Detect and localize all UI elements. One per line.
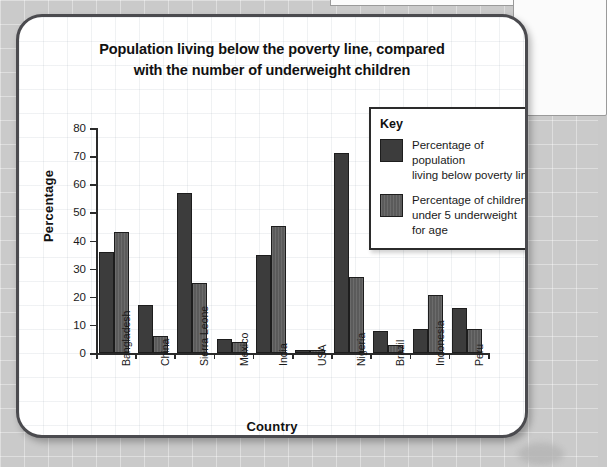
- chart-title-line-1: Population living below the poverty line…: [19, 39, 525, 60]
- y-axis-title: Percentage: [41, 170, 56, 242]
- y-axis-tick: [90, 128, 96, 130]
- x-axis-category-label: Nigeria: [355, 333, 367, 366]
- x-axis-tick: [488, 353, 490, 359]
- bar-group: [256, 226, 286, 353]
- y-axis-tick-label: 70: [73, 150, 86, 162]
- y-axis-tick-label: 40: [73, 235, 86, 247]
- legend-label-underweight: Percentage of children under 5 underweig…: [412, 193, 527, 239]
- paper-edge-top: [330, 0, 532, 6]
- legend-label-underweight-line-2: under 5 underweight: [412, 208, 527, 223]
- x-axis-category-label: Peru: [473, 344, 485, 366]
- x-axis-tick: [370, 353, 372, 359]
- y-axis-tick-label: 0: [80, 347, 86, 359]
- x-axis-tick: [174, 353, 176, 359]
- legend-swatch-poverty: [380, 139, 403, 162]
- bar-group: [334, 153, 364, 353]
- x-axis-title: Country: [19, 419, 525, 434]
- x-axis-tick: [410, 353, 412, 359]
- y-axis-tick-label: 80: [73, 122, 86, 134]
- bar: [271, 226, 286, 353]
- x-axis-tick: [331, 353, 333, 359]
- bar: [256, 255, 271, 353]
- legend-label-poverty-line-1: Percentage of population: [412, 138, 528, 168]
- chart-card: Population living below the poverty line…: [16, 14, 528, 438]
- bar: [217, 339, 232, 353]
- legend-label-underweight-line-3: for age: [412, 223, 527, 238]
- y-axis-tick-label: 10: [73, 319, 86, 331]
- x-axis-category-label: Bangladesh: [120, 311, 132, 366]
- legend-title: Key: [380, 117, 528, 131]
- x-axis-tick: [253, 353, 255, 359]
- bar: [334, 153, 349, 353]
- x-axis-category-label: China: [159, 339, 171, 366]
- legend-item-underweight: Percentage of children under 5 underweig…: [380, 193, 528, 239]
- x-axis-category-label: USA: [316, 344, 328, 366]
- legend-label-poverty-line-2: living below poverty line: [412, 168, 528, 183]
- x-axis-category-label: India: [277, 343, 289, 366]
- legend-item-poverty: Percentage of population living below po…: [380, 138, 528, 184]
- bar: [177, 193, 192, 353]
- legend-label-poverty: Percentage of population living below po…: [412, 138, 528, 184]
- chart-title-line-2: with the number of underweight children: [19, 60, 525, 81]
- x-axis-tick: [96, 353, 98, 359]
- y-axis-tick: [90, 297, 96, 299]
- y-axis-line: [96, 128, 98, 355]
- legend-label-underweight-line-1: Percentage of children: [412, 193, 527, 208]
- x-axis-tick: [135, 353, 137, 359]
- y-axis-tick-label: 60: [73, 178, 86, 190]
- x-axis-category-label: Brazil: [394, 340, 406, 366]
- x-axis-tick: [292, 353, 294, 359]
- y-axis-tick: [90, 269, 96, 271]
- y-axis-tick: [90, 325, 96, 327]
- x-axis-tick: [449, 353, 451, 359]
- y-axis-tick: [90, 156, 96, 158]
- bar: [413, 329, 428, 353]
- bar: [373, 331, 388, 354]
- y-axis-tick: [90, 241, 96, 243]
- legend-swatch-underweight: [380, 194, 403, 217]
- y-axis-tick: [90, 184, 96, 186]
- page-smudge: [518, 443, 564, 465]
- bar: [452, 308, 467, 353]
- legend-key: Key Percentage of population living belo…: [369, 107, 528, 250]
- bar: [99, 252, 114, 353]
- y-axis-tick-label: 50: [73, 206, 86, 218]
- bar: [138, 305, 153, 353]
- bar: [295, 350, 310, 353]
- x-axis-category-label: Indonesia: [434, 320, 446, 366]
- chart-title: Population living below the poverty line…: [19, 39, 525, 81]
- x-axis-category-label: Sierra Leone: [198, 306, 210, 366]
- y-axis-tick-label: 30: [73, 263, 86, 275]
- y-axis-tick: [90, 212, 96, 214]
- y-axis-tick-label: 20: [73, 291, 86, 303]
- x-axis-tick: [214, 353, 216, 359]
- x-axis-category-label: Mexico: [238, 333, 250, 366]
